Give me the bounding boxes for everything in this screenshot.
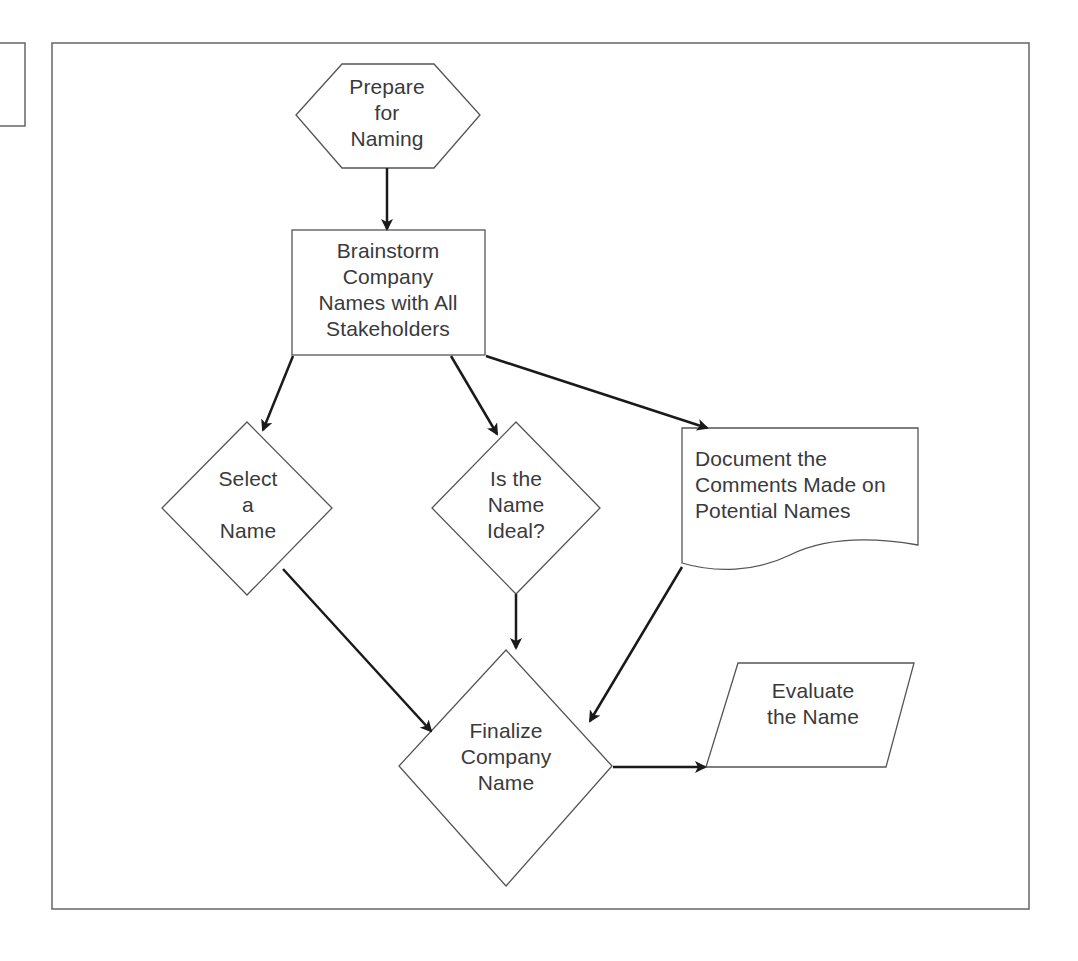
flowchart-canvas: Prepare for Naming Brainstorm Company Na…	[0, 0, 1078, 961]
node-finalize-line: Name	[461, 770, 552, 796]
arrow-brainstorm-to-document	[486, 356, 707, 428]
cropped-left-frame	[0, 43, 25, 126]
node-prepare-line: for	[349, 100, 424, 126]
node-select-line: Name	[219, 518, 278, 544]
node-select-line: Select	[219, 466, 278, 492]
node-select-label: Select a Name	[219, 466, 278, 544]
node-brainstorm-line: Company	[318, 264, 457, 290]
node-brainstorm-label: Brainstorm Company Names with All Stakeh…	[318, 238, 457, 342]
node-ideal-line: Is the	[487, 466, 545, 492]
node-document-label: Document the Comments Made on Potential …	[695, 446, 886, 524]
node-evaluate-label: Evaluate the Name	[767, 678, 859, 730]
node-select-line: a	[219, 492, 278, 518]
arrow-document-to-finalize	[590, 567, 682, 721]
node-document-line: Document the	[695, 446, 886, 472]
node-document-line: Comments Made on	[695, 472, 886, 498]
node-ideal-line: Ideal?	[487, 518, 545, 544]
node-prepare-line: Naming	[349, 126, 424, 152]
node-brainstorm-line: Names with All	[318, 290, 457, 316]
node-finalize-line: Finalize	[461, 718, 552, 744]
node-ideal-line: Name	[487, 492, 545, 518]
node-brainstorm-line: Brainstorm	[318, 238, 457, 264]
arrow-select-to-finalize	[283, 569, 431, 731]
arrow-brainstorm-to-ideal	[451, 356, 497, 434]
node-evaluate-line: Evaluate	[767, 678, 859, 704]
node-finalize-line: Company	[461, 744, 552, 770]
node-finalize-label: Finalize Company Name	[461, 718, 552, 796]
node-prepare-line: Prepare	[349, 74, 424, 100]
node-evaluate-line: the Name	[767, 704, 859, 730]
arrow-brainstorm-to-select	[263, 356, 293, 430]
node-document-line: Potential Names	[695, 498, 886, 524]
node-brainstorm-line: Stakeholders	[318, 316, 457, 342]
node-prepare-label: Prepare for Naming	[349, 74, 424, 152]
node-ideal-label: Is the Name Ideal?	[487, 466, 545, 544]
